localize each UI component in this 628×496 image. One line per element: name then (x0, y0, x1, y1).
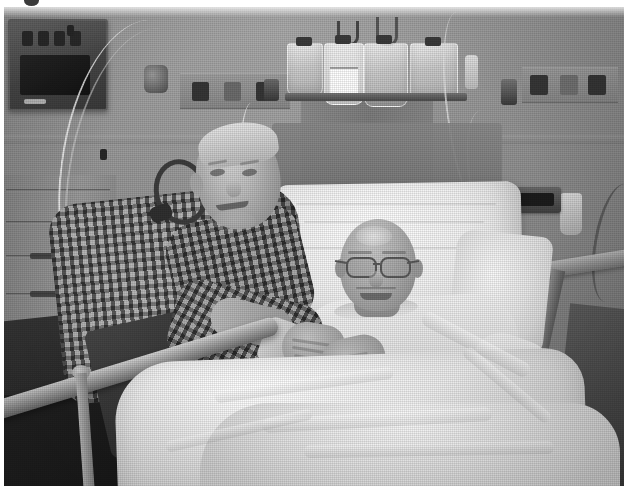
hospital-room-photograph (4, 7, 624, 486)
patient-mouth (360, 293, 392, 300)
wall-valve-knob (501, 79, 517, 105)
wall-outlet (560, 75, 578, 95)
gas-port (224, 82, 241, 101)
bed-head-panel (272, 123, 502, 187)
iv-pole-crossbar (285, 93, 467, 101)
eyeglasses-bridge (373, 263, 380, 265)
visitor-chin (210, 211, 256, 231)
iv-bag-port (376, 35, 392, 44)
patient-nose (369, 271, 383, 287)
eyeglasses-lens (380, 257, 411, 278)
wall-outlet-panel (522, 67, 618, 103)
iv-bag-port (335, 35, 351, 44)
wall-outlet (530, 75, 548, 95)
patient-brow (382, 251, 406, 254)
wall-outlet (588, 75, 606, 95)
patient-smile-line (356, 287, 396, 289)
photo-scene (4, 7, 624, 486)
monitor-indicator (24, 99, 46, 104)
monitor-button (22, 31, 33, 46)
iv-bag (287, 43, 323, 97)
iv-bag-port (296, 37, 312, 46)
wall-suction-bottle (560, 193, 582, 235)
patient-head-highlight (356, 226, 392, 246)
patient-brow (348, 251, 372, 254)
monitor-button (54, 31, 65, 46)
gas-regulator-knob (264, 79, 279, 101)
page-artifact-mark (24, 0, 39, 6)
pillow-fold (296, 203, 496, 205)
iv-tubing-clamp (67, 25, 74, 36)
page-root (0, 0, 628, 496)
iv-tubing-clamp (100, 149, 107, 160)
monitor-button (38, 31, 49, 46)
iv-bag-port (425, 37, 441, 46)
